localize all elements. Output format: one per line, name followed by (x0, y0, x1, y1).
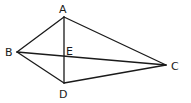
label-a: A (59, 3, 67, 16)
label-b: B (5, 46, 13, 59)
segment-bd (17, 52, 64, 83)
label-e: E (66, 45, 73, 58)
kite-diagram: A B E C D (0, 0, 191, 103)
segment-ab (17, 17, 64, 52)
label-c: C (171, 60, 179, 73)
label-d: D (59, 88, 67, 101)
segment-dc (64, 65, 166, 83)
